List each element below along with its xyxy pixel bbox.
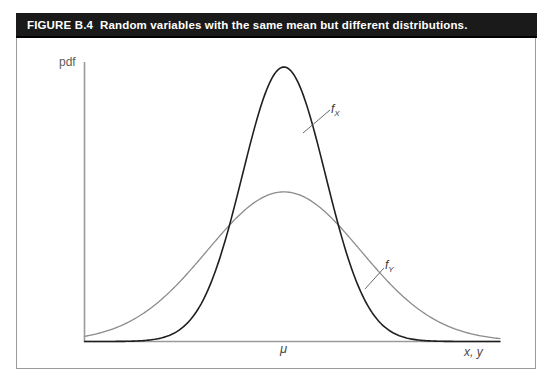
x-axis-tick-label-mu: μ [280, 342, 287, 355]
figure-title-text: FIGURE B.4Random variables with the same… [16, 20, 467, 32]
curve-label-f-y-subscript: Y [388, 265, 393, 274]
y-axis-label: pdf [59, 56, 76, 68]
x-axis-label: x, y [464, 346, 483, 358]
figure-caption: Random variables with the same mean but … [100, 19, 467, 31]
figure-body-frame [16, 38, 536, 369]
figure-title-bar: FIGURE B.4Random variables with the same… [16, 13, 537, 38]
curve-label-f-x-subscript: X [334, 109, 339, 118]
curve-label-f-y: fY [385, 259, 394, 274]
curve-label-f-x: fX [331, 103, 340, 118]
figure-number-label: FIGURE B.4 [27, 19, 93, 31]
figure-container: FIGURE B.4Random variables with the same… [0, 0, 554, 389]
